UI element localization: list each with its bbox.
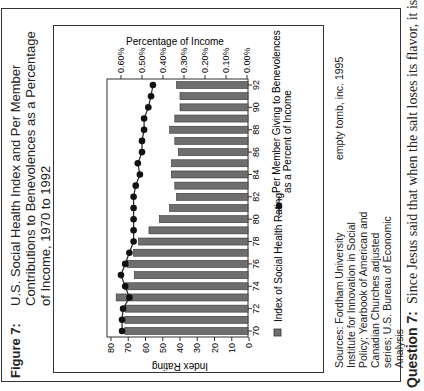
- marker-1973: [126, 294, 133, 301]
- marker-1992: [150, 82, 157, 89]
- bar-1992: [177, 82, 248, 89]
- pct-axis-title: Percentage of Income: [126, 36, 224, 47]
- index-tick-label: 60: [141, 343, 151, 353]
- marker-1986: [139, 149, 146, 156]
- legend-label-giving-1: Per Member Giving to Benevolences: [271, 30, 282, 193]
- index-axis-title: Index Rating: [152, 361, 208, 372]
- marker-1977: [126, 249, 133, 256]
- legend: Index of Social Health RatingPer Member …: [271, 30, 293, 336]
- index-tick-label: 50: [158, 343, 168, 353]
- pct-tick-label: 0.50%: [137, 47, 147, 73]
- index-tick-label: 0: [244, 343, 254, 348]
- pct-tick-label: 0.30%: [179, 47, 189, 73]
- marker-1970: [119, 328, 126, 335]
- year-tick-label: 84: [251, 169, 261, 179]
- marker-1980: [130, 216, 137, 223]
- marker-1987: [139, 138, 146, 145]
- year-tick-label: 90: [251, 102, 261, 112]
- marker-1981: [130, 205, 137, 212]
- bar-1970: [125, 328, 248, 335]
- pct-tick-label: 0.60%: [116, 47, 126, 73]
- bar-1975: [134, 272, 248, 279]
- year-tick-label: 80: [251, 214, 261, 224]
- year-tick-label: 92: [251, 80, 261, 90]
- year-tick-label: 70: [251, 326, 261, 336]
- marker-1989: [141, 115, 148, 122]
- marker-1975: [118, 272, 125, 279]
- bar-1977: [133, 249, 248, 256]
- bar-1989: [175, 115, 248, 122]
- marker-1984: [137, 171, 144, 178]
- sources-label: Sources:: [333, 327, 345, 368]
- year-tick-label: 86: [251, 147, 261, 157]
- index-tick-label: 70: [123, 343, 133, 353]
- bar-1982: [177, 193, 248, 200]
- bar-1980: [159, 216, 248, 223]
- legend-swatch-bar: [274, 329, 281, 336]
- marker-1983: [132, 182, 139, 189]
- year-tick-label: 72: [251, 304, 261, 314]
- bar-1974: [125, 283, 248, 290]
- bar-1985: [171, 160, 248, 167]
- year-tick-label: 76: [251, 259, 261, 269]
- pct-tick-label: 0.40%: [158, 47, 168, 73]
- marker-1982: [130, 194, 137, 201]
- marker-1979: [130, 227, 137, 234]
- legend-label-giving-2: as a Percent of Income: [282, 90, 293, 193]
- marker-1974: [122, 283, 129, 290]
- bar-1972: [126, 305, 248, 312]
- bar-1987: [175, 137, 248, 144]
- marker-1991: [148, 93, 155, 100]
- marker-1972: [120, 305, 127, 312]
- pct-tick-label: 0.00%: [242, 47, 252, 73]
- year-tick-label: 78: [251, 237, 261, 247]
- marker-1985: [135, 160, 142, 167]
- year-tick-label: 74: [251, 281, 261, 291]
- question-text: Since Jesus said that when the salt lose…: [405, 0, 420, 304]
- question-label: Question 7:: [404, 311, 420, 388]
- marker-1976: [122, 261, 129, 268]
- bar-1990: [180, 104, 248, 111]
- bar-1991: [180, 93, 248, 100]
- pct-tick-label: 0.10%: [221, 47, 231, 73]
- index-tick-label: 30: [192, 343, 202, 353]
- marker-1988: [141, 126, 148, 133]
- marker-1978: [130, 238, 137, 245]
- legend-swatch-marker: [276, 203, 282, 209]
- index-tick-label: 40: [175, 343, 185, 353]
- bar-1984: [171, 171, 248, 178]
- question-block: Question 7: Since Jesus said that when t…: [404, 0, 421, 388]
- credit-text: empty tomb, inc. 1995: [333, 57, 345, 160]
- index-tick-label: 20: [210, 343, 220, 353]
- index-tick-label: 80: [106, 343, 116, 353]
- pct-tick-label: 0.20%: [200, 47, 210, 73]
- sources-block: Sources: Fordham University Institute fo…: [333, 208, 405, 368]
- bar-1976: [127, 260, 248, 267]
- bar-1986: [178, 149, 248, 156]
- marker-1971: [119, 317, 126, 324]
- bar-1971: [125, 316, 248, 323]
- bar-1988: [170, 126, 248, 133]
- bar-1979: [149, 227, 248, 234]
- bar-1983: [175, 182, 248, 189]
- index-tick-label: 10: [227, 343, 237, 353]
- year-tick-label: 88: [251, 125, 261, 135]
- marker-1990: [145, 104, 152, 111]
- bar-1978: [139, 238, 248, 245]
- bar-1981: [170, 205, 248, 212]
- year-tick-label: 82: [251, 192, 261, 202]
- bar-1973: [116, 294, 248, 301]
